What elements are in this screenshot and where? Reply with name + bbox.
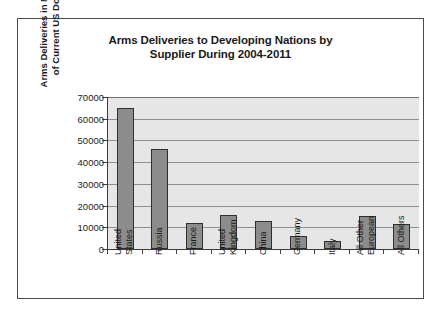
x-axis-category-label: UnitedStates bbox=[113, 229, 134, 255]
x-axis-category-label-line: United bbox=[217, 219, 228, 255]
x-axis-category-label: China bbox=[258, 231, 269, 255]
x-label-slot: Russia bbox=[142, 255, 177, 316]
y-axis-tick-label: 70000 bbox=[58, 92, 104, 103]
x-axis-tick-mark bbox=[176, 249, 177, 254]
y-axis-tick-label: 30000 bbox=[58, 178, 104, 189]
y-axis-tick-label: 10000 bbox=[58, 222, 104, 233]
x-axis-category-label-line: All Other bbox=[355, 216, 366, 255]
x-axis-category-label: France bbox=[188, 227, 199, 255]
x-axis-category-label: Germany bbox=[292, 218, 303, 255]
x-axis-tick-mark bbox=[418, 249, 419, 254]
x-axis-category-label: Russia bbox=[154, 227, 165, 255]
x-axis-category-labels: UnitedStatesRussiaFranceUnitedKingdomChi… bbox=[107, 255, 418, 316]
chart-title-line-1: Arms Deliveries to Developing Nations by bbox=[18, 33, 423, 47]
bar-slot bbox=[108, 97, 143, 249]
x-label-slot: All Others bbox=[384, 255, 419, 316]
y-axis-tick-label: 50000 bbox=[58, 135, 104, 146]
y-axis-tick-label: 0 bbox=[58, 244, 104, 255]
y-axis-tick-labels: 700006000050000400003000020000100000 bbox=[58, 91, 104, 251]
x-axis-tick-mark bbox=[314, 249, 315, 254]
bar[interactable] bbox=[117, 108, 134, 249]
x-axis-category-label-line: Italy bbox=[327, 238, 338, 255]
chart-title-line-2: Supplier During 2004-2011 bbox=[18, 47, 423, 61]
x-axis-category-label-line: Kingdom bbox=[227, 219, 238, 255]
x-axis-category-label: UnitedKingdom bbox=[217, 219, 238, 255]
x-label-slot: France bbox=[176, 255, 211, 316]
x-axis-tick-mark bbox=[245, 249, 246, 254]
x-axis-category-label-line: Russia bbox=[154, 227, 165, 255]
x-axis-category-label-line: European bbox=[366, 216, 377, 255]
x-axis-tick-mark bbox=[349, 249, 350, 254]
y-axis-tick-label: 40000 bbox=[58, 157, 104, 168]
x-label-slot: UnitedStates bbox=[107, 255, 142, 316]
x-label-slot: Italy bbox=[314, 255, 349, 316]
x-axis-category-label-line: All Others bbox=[396, 215, 407, 255]
x-axis-tick-mark bbox=[280, 249, 281, 254]
x-axis-category-label-line: China bbox=[258, 231, 269, 255]
x-axis-category-label-line: Germany bbox=[292, 218, 303, 255]
x-label-slot: UnitedKingdom bbox=[211, 255, 246, 316]
x-label-slot: Germany bbox=[280, 255, 315, 316]
x-axis-category-label-line: France bbox=[188, 227, 199, 255]
x-axis-tick-mark bbox=[383, 249, 384, 254]
x-axis-category-label: All OtherEuropean bbox=[355, 216, 376, 255]
chart-frame: Arms Deliveries to Developing Nations by… bbox=[17, 18, 424, 299]
y-axis-tick-label: 20000 bbox=[58, 200, 104, 211]
x-axis-tick-mark bbox=[142, 249, 143, 254]
x-label-slot: China bbox=[245, 255, 280, 316]
x-axis-category-label-line: United bbox=[113, 229, 124, 255]
y-axis-tick-label: 60000 bbox=[58, 113, 104, 124]
x-axis-tick-mark bbox=[107, 249, 108, 254]
x-label-slot: All OtherEuropean bbox=[349, 255, 384, 316]
x-axis-tick-mark bbox=[211, 249, 212, 254]
bar-slot bbox=[143, 97, 178, 249]
x-axis-category-label-line: States bbox=[124, 229, 135, 255]
x-axis-category-label: Italy bbox=[327, 238, 338, 255]
y-axis-title-line-1: Arms Deliveries in Millions bbox=[38, 0, 50, 107]
bar-slot bbox=[315, 97, 350, 249]
bar-slot bbox=[246, 97, 281, 249]
chart-title: Arms Deliveries to Developing Nations by… bbox=[18, 33, 423, 61]
x-axis-category-label: All Others bbox=[396, 215, 407, 255]
